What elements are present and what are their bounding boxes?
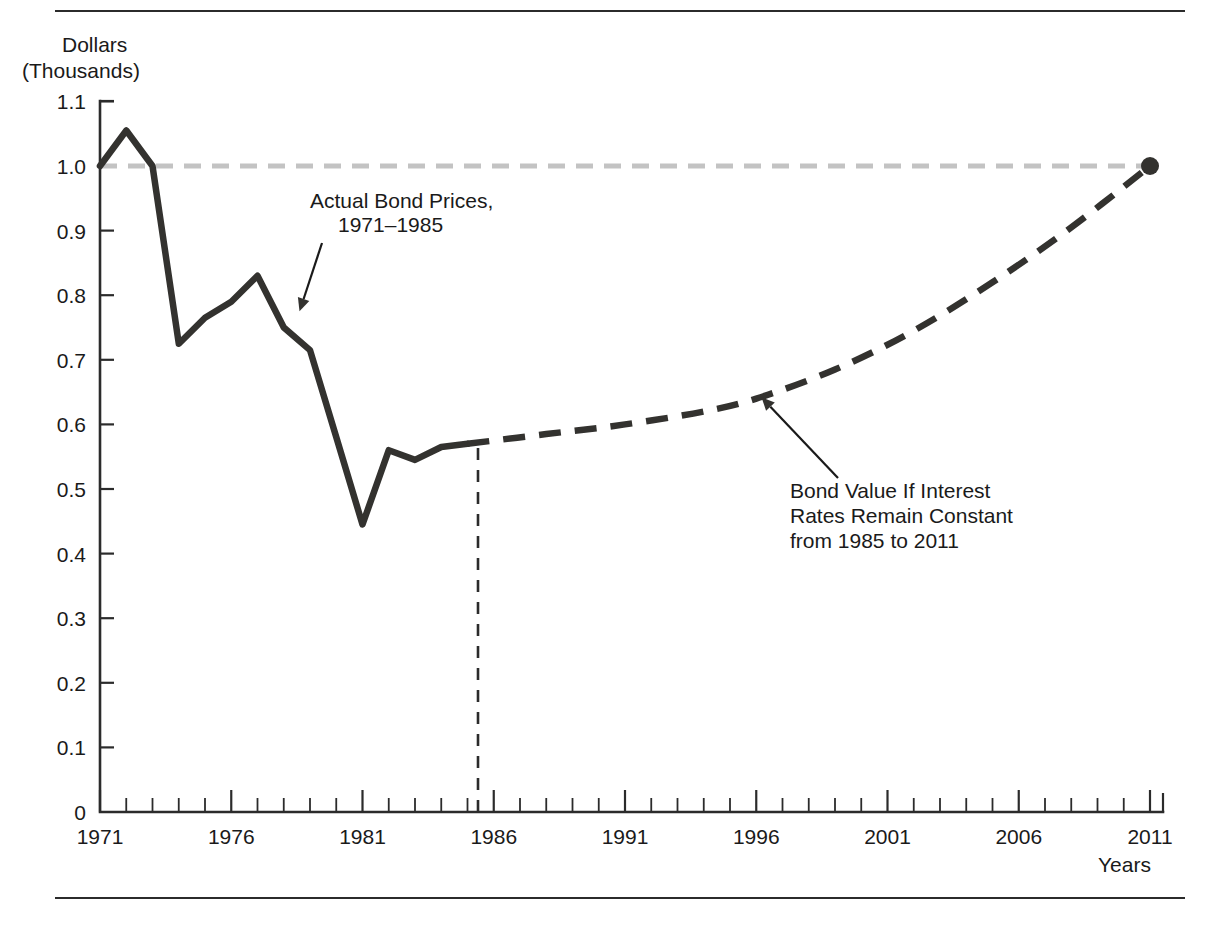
- y-tick-label: 0.7: [57, 349, 86, 372]
- x-tick-label: 1971: [77, 825, 124, 848]
- y-axis-ticks: [100, 101, 114, 747]
- axis-lines: [100, 101, 1163, 812]
- y-tick-label: 0.3: [57, 607, 86, 630]
- data-point-markers: [1141, 157, 1159, 175]
- y-tick-label: 1.0: [57, 155, 86, 178]
- x-tick-label: 1996: [733, 825, 780, 848]
- annotation-actual-line2: 1971–1985: [338, 213, 443, 236]
- annotation-projected-line2: Rates Remain Constant: [790, 504, 1013, 527]
- x-axis-tick-labels: 197119761981198619911996200120062011: [77, 825, 1173, 848]
- y-tick-label: 1.1: [57, 90, 86, 113]
- y-tick-label: 0.5: [57, 478, 86, 501]
- y-tick-label: 0.4: [57, 543, 87, 566]
- annotation-actual-line1: Actual Bond Prices,: [310, 189, 493, 212]
- endpoint-marker: [1141, 157, 1159, 175]
- y-axis-label-line2: (Thousands): [22, 59, 140, 82]
- y-tick-label: 0.1: [57, 736, 86, 759]
- x-tick-label: 1991: [602, 825, 649, 848]
- annotation-actual-leader-line: [304, 243, 322, 299]
- x-axis-label: Years: [1098, 853, 1151, 876]
- annotation-projected-leader-line: [770, 407, 838, 478]
- x-tick-label: 1986: [470, 825, 517, 848]
- x-tick-label: 2006: [995, 825, 1042, 848]
- y-tick-label: 0.6: [57, 413, 86, 436]
- x-tick-label: 2001: [864, 825, 911, 848]
- y-axis-label-line1: Dollars: [62, 33, 127, 56]
- x-tick-label: 2011: [1127, 825, 1172, 848]
- line-chart: Dollars (Thousands) Years 00.10.20.30.40…: [0, 0, 1207, 932]
- annotation-projected-bond-value: Bond Value If Interest Rates Remain Cons…: [762, 397, 1014, 552]
- y-tick-label: 0.8: [57, 284, 86, 307]
- y-tick-label: 0.2: [57, 672, 86, 695]
- y-tick-label: 0.9: [57, 220, 86, 243]
- projected-bond-value-line: [468, 166, 1151, 444]
- annotation-actual-arrowhead: [298, 297, 309, 311]
- x-tick-label: 1981: [339, 825, 386, 848]
- annotation-projected-line3: from 1985 to 2011: [790, 529, 959, 552]
- annotation-projected-line1: Bond Value If Interest: [790, 479, 991, 502]
- annotation-actual-bond-prices: Actual Bond Prices, 1971–1985: [298, 189, 493, 311]
- x-tick-label: 1976: [208, 825, 255, 848]
- y-tick-label: 0: [74, 801, 86, 824]
- y-axis-tick-labels: 00.10.20.30.40.50.60.70.80.91.01.1: [57, 90, 87, 824]
- bond-price-figure: Dollars (Thousands) Years 00.10.20.30.40…: [0, 0, 1207, 932]
